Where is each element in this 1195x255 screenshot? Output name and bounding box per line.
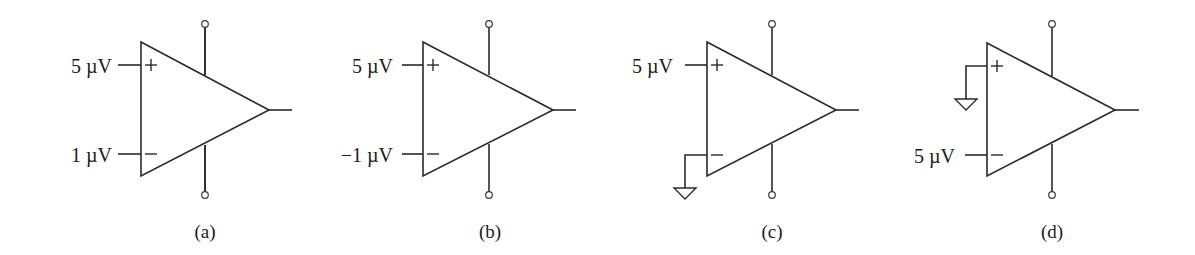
inverting-input-label-d: 5 µV: [914, 146, 955, 166]
ground-icon-d: [955, 99, 977, 110]
opamp-c: [674, 21, 859, 199]
noninverting-input-label-b: 5 µV: [352, 56, 393, 76]
opamp-figure: [0, 0, 1195, 255]
caption-d: (d): [1041, 222, 1063, 241]
positive-supply-terminal-c: [769, 21, 776, 28]
positive-supply-terminal-d: [1049, 21, 1056, 28]
opamp-triangle-b: [423, 42, 553, 176]
opamp-a: [118, 21, 292, 199]
inverting-input-ground-wire-c: [685, 155, 707, 188]
negative-supply-terminal-c: [769, 192, 776, 199]
noninverting-input-ground-wire-d: [966, 66, 987, 99]
inverting-input-label-b: −1 µV: [341, 145, 393, 165]
inverting-input-label-a: 1 µV: [71, 145, 112, 165]
positive-supply-terminal-a: [202, 21, 209, 28]
caption-b: (b): [479, 222, 501, 241]
negative-supply-terminal-a: [202, 192, 209, 199]
noninverting-input-label-a: 5 µV: [71, 56, 112, 76]
caption-a: (a): [194, 222, 215, 241]
positive-supply-terminal-b: [486, 21, 493, 28]
caption-c: (c): [761, 222, 782, 241]
ground-icon-c: [674, 188, 696, 199]
opamp-triangle-d: [987, 43, 1115, 176]
negative-supply-terminal-b: [486, 192, 493, 199]
opamp-d: [955, 21, 1139, 199]
negative-supply-terminal-d: [1049, 192, 1056, 199]
noninverting-input-label-c: 5 µV: [632, 56, 673, 76]
opamp-b: [402, 21, 576, 199]
